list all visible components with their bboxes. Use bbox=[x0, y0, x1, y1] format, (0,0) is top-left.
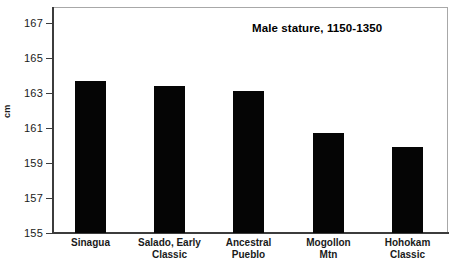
y-tick-label: 163 bbox=[24, 88, 43, 99]
y-tick-label: 167 bbox=[24, 18, 43, 29]
x-tick-label-salado: Salado, Early Classic bbox=[124, 237, 215, 260]
x-label-line-1: Hohokam bbox=[385, 237, 431, 248]
x-label-line-1: Ancestral bbox=[226, 237, 272, 248]
y-tick-mark bbox=[46, 233, 53, 234]
y-tick-label: 157 bbox=[24, 193, 43, 204]
bar-chart: cm Male stature, 1150-1350 167 165 163 1… bbox=[0, 0, 454, 272]
x-tick-label-ancestral-pueblo: Ancestral Pueblo bbox=[203, 237, 294, 260]
y-tick-mark bbox=[46, 93, 53, 94]
bar-ancestral-pueblo bbox=[233, 91, 264, 233]
x-label-line-2: Classic bbox=[362, 249, 453, 261]
x-tick-label-mogollon-mtn: Mogollon Mtn bbox=[283, 237, 374, 260]
y-tick-label: 155 bbox=[24, 228, 43, 239]
x-label-line-2: Classic bbox=[124, 249, 215, 261]
y-tick-mark bbox=[46, 23, 53, 24]
x-tick-label-hohokam-classic: Hohokam Classic bbox=[362, 237, 453, 260]
x-tick-label-sinagua: Sinagua bbox=[45, 237, 136, 249]
y-tick-label: 159 bbox=[24, 158, 43, 169]
bar-sinagua bbox=[75, 81, 106, 233]
y-tick-label: 165 bbox=[24, 53, 43, 64]
y-axis-line bbox=[52, 7, 54, 234]
y-axis-title: cm bbox=[2, 104, 12, 118]
x-label-line-2: Mtn bbox=[283, 249, 374, 261]
x-label-line-1: Mogollon bbox=[306, 237, 350, 248]
bar-hohokam-classic bbox=[392, 147, 423, 233]
chart-title: Male stature, 1150-1350 bbox=[252, 22, 382, 34]
y-tick-mark bbox=[46, 58, 53, 59]
bar-mogollon-mtn bbox=[313, 133, 344, 233]
y-tick-mark bbox=[46, 198, 53, 199]
y-tick-mark bbox=[46, 128, 53, 129]
x-label-line-2: Pueblo bbox=[203, 249, 294, 261]
bar-salado-early-classic bbox=[154, 86, 185, 233]
x-label-line-1: Salado, Early bbox=[138, 237, 201, 248]
y-tick-label: 161 bbox=[24, 123, 43, 134]
x-label-line-1: Sinagua bbox=[71, 237, 110, 248]
y-tick-mark bbox=[46, 163, 53, 164]
